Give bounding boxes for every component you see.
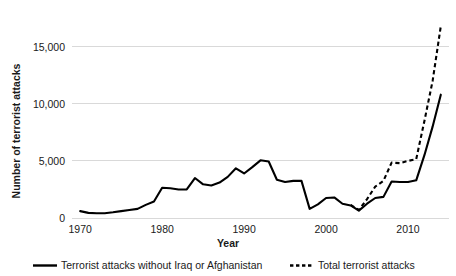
y-tick-label: 10,000 <box>33 98 65 110</box>
series-line-solid <box>80 95 441 214</box>
x-tick-label: 2000 <box>314 223 338 235</box>
y-tick-label: 0 <box>59 212 65 224</box>
data-series-group <box>80 26 441 213</box>
y-axis-title: Number of terrorist attacks <box>10 63 22 198</box>
gridlines-group <box>72 47 449 218</box>
chart-container: 05,00010,00015,000 19701980199020002010 … <box>0 0 456 276</box>
y-tick-label: 15,000 <box>33 41 65 53</box>
x-tick-label: 1980 <box>150 223 174 235</box>
legend-label-dashed: Total terrorist attacks <box>318 259 415 271</box>
x-tick-label: 1970 <box>69 223 93 235</box>
line-chart: 05,00010,00015,000 19701980199020002010 … <box>0 0 456 276</box>
chart-legend: Terrorist attacks without Iraq or Afghan… <box>33 259 415 271</box>
x-tick-label: 1990 <box>232 223 256 235</box>
y-axis-tick-labels: 05,00010,00015,000 <box>33 41 65 224</box>
x-axis-title: Year <box>217 237 239 249</box>
y-tick-label: 5,000 <box>39 155 65 167</box>
legend-label-solid: Terrorist attacks without Iraq or Afghan… <box>61 259 263 271</box>
x-tick-label: 2010 <box>396 223 420 235</box>
x-axis-tick-labels: 19701980199020002010 <box>69 223 420 235</box>
